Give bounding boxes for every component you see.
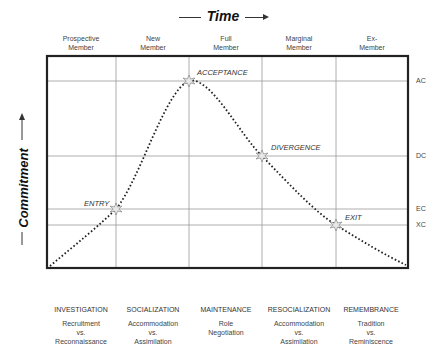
- phase-maintenance: MAINTENANCE Role Negotiation: [186, 305, 266, 337]
- level-label-ac: AC: [416, 77, 426, 84]
- phase-title: MAINTENANCE: [186, 305, 266, 314]
- commitment-label: Commitment: [16, 148, 31, 227]
- phase-sub: vs.: [259, 328, 339, 337]
- event-label-divergence: DIVERGENCE: [271, 143, 321, 152]
- phase-sub: Reconnaissance: [41, 337, 121, 346]
- phase-socialization: SOCIALIZATION Accommodation vs. Assimila…: [113, 305, 193, 346]
- phase-sub: Recruitment: [41, 319, 121, 328]
- event-label-acceptance: ACCEPTANCE: [197, 68, 248, 77]
- event-label-entry: ENTRY: [84, 199, 109, 208]
- event-label-exit: EXIT: [345, 213, 362, 222]
- up-arrow-icon: [19, 113, 25, 120]
- phase-title: RESOCIALIZATION: [259, 305, 339, 314]
- diagram-frame: [47, 56, 408, 268]
- phase-title: INVESTIGATION: [41, 305, 121, 314]
- phase-sub: Assimilation: [113, 337, 193, 346]
- commitment-curve: [50, 81, 406, 266]
- phase-sub: vs.: [41, 328, 121, 337]
- phase-sub: Tradition: [331, 319, 411, 328]
- phase-sub: Accommodation: [259, 319, 339, 328]
- phase-investigation: INVESTIGATION Recruitment vs. Reconnaiss…: [41, 305, 121, 346]
- phase-resocialization: RESOCIALIZATION Accommodation vs. Assimi…: [259, 305, 339, 346]
- phase-sub: vs.: [331, 328, 411, 337]
- phase-sub: Accommodation: [113, 319, 193, 328]
- commitment-axis-title: Commitment: [13, 148, 33, 228]
- phase-sub: Role: [186, 319, 266, 328]
- level-label-ec: EC: [416, 205, 426, 212]
- phase-remembrance: REMEMBRANCE Tradition vs. Reminiscence: [331, 305, 411, 346]
- level-label-xc: XC: [416, 221, 426, 228]
- phase-sub: vs.: [113, 328, 193, 337]
- phase-sub: Assimilation: [259, 337, 339, 346]
- phase-sub: Negotiation: [186, 328, 266, 337]
- phase-sub: Reminiscence: [331, 337, 411, 346]
- phase-title: SOCIALIZATION: [113, 305, 193, 314]
- phase-title: REMEMBRANCE: [331, 305, 411, 314]
- level-label-dc: DC: [416, 152, 426, 159]
